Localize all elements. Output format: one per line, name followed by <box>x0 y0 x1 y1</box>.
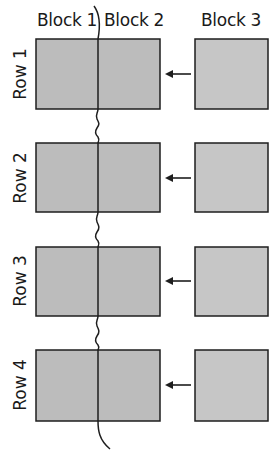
row-4-group <box>36 350 268 421</box>
block-3-row-2 <box>195 143 268 212</box>
row-3-group <box>36 247 268 316</box>
row-2-group <box>36 143 268 212</box>
arrow-left-icon <box>165 277 191 285</box>
row-1-group <box>36 39 268 109</box>
arrow-left-icon <box>165 174 191 182</box>
block-3-row-1 <box>195 39 268 109</box>
arrow-left-icon <box>165 70 191 78</box>
block-3-row-4 <box>195 350 268 421</box>
diagram-canvas <box>0 0 277 456</box>
block-3-row-3 <box>195 247 268 316</box>
arrow-left-icon <box>165 381 191 389</box>
